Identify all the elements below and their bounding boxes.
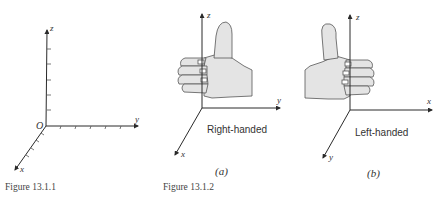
z-ticks (47, 49, 51, 110)
handedness-label: Left-handed (355, 127, 408, 138)
figure-13-1-1: z y x O Figure 13.1.1 (5, 23, 139, 192)
x-axis (175, 108, 202, 155)
origin-label: O (36, 120, 43, 131)
left-hand-icon (305, 24, 374, 99)
right-hand-icon (178, 22, 252, 98)
x-axis-label: x (19, 164, 24, 174)
x-axis-label: x (426, 96, 431, 106)
figures-canvas: z y x O Figure 13.1.1 z y x Right-han (0, 0, 447, 199)
x-ticks (26, 133, 44, 157)
y-axis-label: y (328, 152, 333, 162)
z-axis (46, 30, 47, 126)
y-axis (323, 110, 350, 158)
z-axis-label: z (49, 23, 54, 33)
figure-caption-13-1-1: Figure 13.1.1 (5, 182, 56, 192)
panel-label-a: (a) (215, 165, 228, 178)
x-axis-label: x (180, 149, 185, 159)
panel-label-b: (b) (367, 167, 380, 180)
handedness-label: Right-handed (207, 124, 267, 135)
figure-13-1-2-panel-a: z y x Right-handed (a) Figure 13.1.2 (163, 10, 281, 192)
z-axis-label: z (206, 10, 211, 20)
z-axis-label: z (355, 12, 360, 22)
figure-caption-13-1-2: Figure 13.1.2 (163, 182, 214, 192)
figure-13-1-2-panel-b: z x y Left-handed (b) (305, 12, 432, 180)
y-axis-label: y (134, 114, 139, 124)
y-axis-label: y (276, 95, 281, 105)
